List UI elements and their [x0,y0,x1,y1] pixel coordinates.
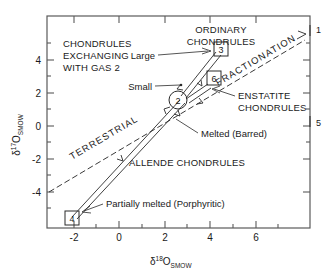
callout-partially-melted-leader [84,204,103,211]
callout-large-leader [158,51,208,55]
y-axis-title: δ17OSMOW [10,113,24,155]
y-tick-label-1: 2 [35,88,41,99]
oxygen-isotope-scatter-plot: -2 0 2 4 6 4 2 0 -2 -4 δ18OSMOW δ17OSMOW… [0,0,328,275]
x-tick-label-3: 4 [207,232,213,243]
region-line-3: WITH GAS 2 [63,62,120,73]
data-point-4-label: 4 [69,214,74,224]
enstatite-line-2: CHONDRULES [238,102,307,113]
x-tick-label-4: 6 [253,232,259,243]
top-axis-ticks [74,16,256,23]
callout-large-label: Large [131,50,155,61]
callout-melted-label: Melted (Barred) [201,128,267,139]
region-label-chondrules-exchanging: CHONDRULES EXCHANGING WITH GAS 2 [63,38,132,73]
ordinary-line-1: ORDINARY [195,24,247,35]
y-tick-label-3: -2 [32,154,41,165]
y-tick-label-2: 0 [35,121,41,132]
x-axis-ticks [74,221,278,228]
region-label-enstatite-chondrules: ENSTATITE CHONDRULES [238,90,307,113]
data-point-2-label: 2 [175,96,180,106]
y-tick-label-0: 4 [35,55,41,66]
data-point-3-label: 3 [218,45,223,55]
svg-text:δ18OSMOW: δ18OSMOW [150,255,192,269]
x-tick-label-2: 2 [162,232,168,243]
x-axis-title: δ18OSMOW [150,255,192,269]
right-axis-ticks [303,43,310,192]
trend-barb-5 [117,155,123,161]
trend-barb-4 [174,110,180,116]
callout-small-label: Small [128,81,152,92]
callout-melted-leader [176,119,198,133]
data-point-5-label: 5 [316,118,321,128]
terrestrial-line-label: TERRESTRIAL [67,113,139,162]
y-tick-label-4: -4 [32,187,41,198]
x-axis-subscript: SMOW [171,262,193,269]
region-line-2: EXCHANGING [63,50,129,61]
x-tick-label-0: -2 [70,232,79,243]
svg-text:δ17OSMOW: δ17OSMOW [10,113,24,155]
y-axis-ticks [47,43,54,208]
region-label-ordinary-chondrules: ORDINARY CHONDRULES [187,24,256,47]
callout-partially-melted-label: Partially melted (Porphyritic) [106,198,225,209]
figure-container: -2 0 2 4 6 4 2 0 -2 -4 δ18OSMOW δ17OSMOW… [0,0,328,275]
region-label-allende-chondrules: ALLENDE CHONDRULES [129,157,245,168]
trend-barb-6 [164,107,170,114]
y-axis-subscript: SMOW [17,113,24,135]
data-point-6-label: 6 [211,74,216,84]
callout-partially-melted-arrowhead [82,206,91,213]
enstatite-line-1: ENSTATITE [238,90,291,101]
region-line-1: CHONDRULES [63,38,132,49]
fractionation-arrowhead [297,31,306,39]
callout-enstatite-leader [214,89,235,96]
x-tick-label-1: 0 [116,232,122,243]
callout-small-leader [155,85,180,86]
callout-small-endpoint [180,84,183,87]
data-point-1-label: 1 [316,25,321,35]
